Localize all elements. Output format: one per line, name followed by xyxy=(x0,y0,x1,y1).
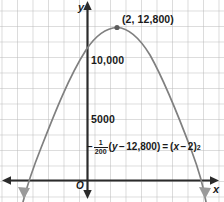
graph-canvas xyxy=(0,0,224,202)
equation-minus-2: − xyxy=(117,142,126,152)
equation-annotation: − 1 200 ( y − 12,800 ) = ( x − 2 ) 2 xyxy=(87,139,201,155)
vertex-label: (2, 12,800) xyxy=(122,14,174,25)
y-tick-label-5000: 5000 xyxy=(91,114,115,125)
equation-exponent: 2 xyxy=(197,144,201,151)
equation-equals: = xyxy=(160,142,170,152)
fraction-numerator: 1 xyxy=(98,139,104,147)
y-axis-label: y xyxy=(78,2,84,13)
fraction-denominator: 200 xyxy=(94,148,108,156)
equation-fraction: 1 200 xyxy=(94,139,108,155)
origin-label: O xyxy=(76,181,84,191)
equation-minus-3: − xyxy=(179,142,188,152)
equation-leading-minus: − xyxy=(87,142,93,152)
x-axis-label: x xyxy=(213,184,219,195)
grid-lines xyxy=(0,0,224,202)
parabola-figure: (2, 12,800) 10,000 5000 y x O − 1 200 ( … xyxy=(0,0,224,202)
vertex-point xyxy=(114,25,119,30)
y-tick-label-10000: 10,000 xyxy=(91,55,124,66)
equation-constant: 12,800 xyxy=(126,142,157,152)
